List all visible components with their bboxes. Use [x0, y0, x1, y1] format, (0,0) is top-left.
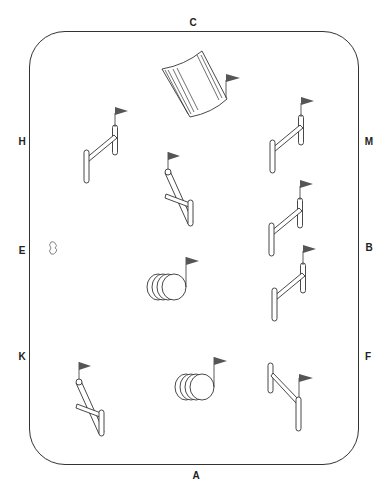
fence-near-h — [84, 107, 128, 183]
liverpool-jump — [162, 51, 240, 117]
fence-near-b-upper — [269, 180, 313, 256]
start-marker-icon — [50, 242, 57, 255]
fence-near-b-lower — [272, 245, 316, 321]
course-drawing — [0, 0, 385, 488]
fence-near-f — [268, 363, 313, 431]
barrel-jump-center — [147, 257, 199, 300]
x-fence-center — [165, 152, 193, 226]
x-fence-near-k — [76, 362, 104, 436]
barrel-jump-near-a — [175, 357, 227, 400]
fence-near-m — [270, 97, 314, 173]
